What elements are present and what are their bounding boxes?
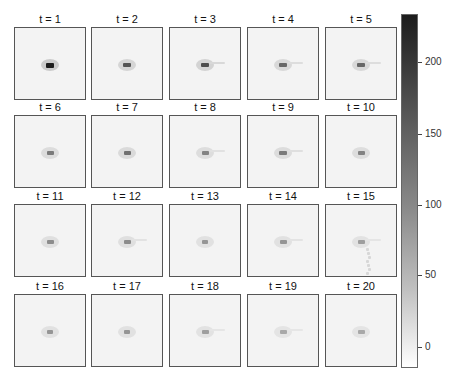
heatmap-panel xyxy=(91,115,163,188)
panel-title: t = 18 xyxy=(169,280,241,292)
scatter-speck xyxy=(367,276,370,277)
intensity-blob xyxy=(280,240,287,244)
intensity-blob xyxy=(202,151,209,155)
colorbar-tick-label: 150 xyxy=(425,129,442,139)
heatmap-panel xyxy=(325,27,397,100)
panel-title: t = 4 xyxy=(247,13,319,25)
panel-title: t = 2 xyxy=(91,13,163,25)
panel-title: t = 16 xyxy=(14,280,86,292)
blob-trail xyxy=(209,62,225,64)
panel-title: t = 12 xyxy=(91,190,163,202)
blob-trail xyxy=(287,150,303,152)
intensity-blob xyxy=(201,63,209,67)
scatter-speck xyxy=(367,252,370,255)
panel-title: t = 17 xyxy=(91,280,163,292)
intensity-blob xyxy=(358,240,365,244)
colorbar-tick-label: 0 xyxy=(425,342,431,352)
blob-trail xyxy=(209,150,225,152)
panel-title: t = 3 xyxy=(169,13,241,25)
heatmap-panel xyxy=(14,294,86,367)
heatmap-panel xyxy=(325,204,397,277)
intensity-blob xyxy=(357,63,365,67)
intensity-blob xyxy=(358,151,365,155)
blob-trail xyxy=(365,62,381,64)
scatter-speck xyxy=(366,272,369,275)
intensity-blob xyxy=(358,330,365,334)
intensity-blob xyxy=(47,151,54,155)
heatmap-panel xyxy=(14,115,86,188)
heatmap-panel xyxy=(14,27,86,100)
scatter-speck xyxy=(367,264,370,267)
colorbar-tick xyxy=(418,275,422,276)
heatmap-panel xyxy=(14,204,86,277)
heatmap-panel xyxy=(169,115,241,188)
panel-title: t = 10 xyxy=(325,101,397,113)
intensity-blob xyxy=(47,330,53,334)
heatmap-panel xyxy=(169,27,241,100)
panel-title: t = 6 xyxy=(14,101,86,113)
intensity-blob xyxy=(280,330,287,334)
heatmap-panel xyxy=(247,204,319,277)
heatmap-panel xyxy=(91,27,163,100)
blob-trail xyxy=(287,239,303,241)
intensity-blob xyxy=(47,240,54,244)
panel-title: t = 9 xyxy=(247,101,319,113)
heatmap-panel xyxy=(247,27,319,100)
colorbar-tick xyxy=(418,205,422,206)
heatmap-panel xyxy=(325,115,397,188)
intensity-blob xyxy=(279,63,287,67)
panel-title: t = 14 xyxy=(247,190,319,202)
colorbar-tick-label: 100 xyxy=(425,200,442,210)
panel-title: t = 15 xyxy=(325,190,397,202)
scatter-speck xyxy=(366,248,369,251)
intensity-blob xyxy=(279,151,287,155)
colorbar-tick xyxy=(418,134,422,135)
scatter-speck xyxy=(368,268,371,271)
heatmap-panel xyxy=(169,294,241,367)
intensity-blob xyxy=(124,240,131,244)
heatmap-panel xyxy=(325,294,397,367)
panel-title: t = 19 xyxy=(247,280,319,292)
colorbar-tick xyxy=(418,347,422,348)
blob-trail xyxy=(131,239,147,241)
intensity-blob xyxy=(124,151,131,155)
panel-title: t = 20 xyxy=(325,280,397,292)
blob-trail xyxy=(287,62,303,64)
intensity-blob xyxy=(123,63,131,67)
colorbar-tick-label: 50 xyxy=(425,270,436,280)
panel-title: t = 1 xyxy=(14,13,86,25)
scatter-speck xyxy=(368,256,371,259)
blob-trail xyxy=(209,329,225,331)
panel-title: t = 11 xyxy=(14,190,86,202)
colorbar-tick-label: 200 xyxy=(425,57,442,67)
heatmap-panel xyxy=(247,294,319,367)
colorbar-tick xyxy=(418,62,422,63)
intensity-blob xyxy=(202,240,208,244)
heatmap-panel xyxy=(91,204,163,277)
intensity-blob xyxy=(46,63,54,68)
blob-trail xyxy=(365,239,381,241)
colorbar xyxy=(401,14,418,368)
intensity-blob xyxy=(124,330,130,334)
heatmap-panel xyxy=(169,204,241,277)
intensity-blob xyxy=(202,330,209,334)
panel-title: t = 8 xyxy=(169,101,241,113)
panel-title: t = 5 xyxy=(325,13,397,25)
panel-title: t = 7 xyxy=(91,101,163,113)
heatmap-panel xyxy=(247,115,319,188)
scatter-speck xyxy=(366,260,369,263)
blob-trail xyxy=(287,329,303,331)
panel-title: t = 13 xyxy=(169,190,241,202)
heatmap-panel xyxy=(91,294,163,367)
